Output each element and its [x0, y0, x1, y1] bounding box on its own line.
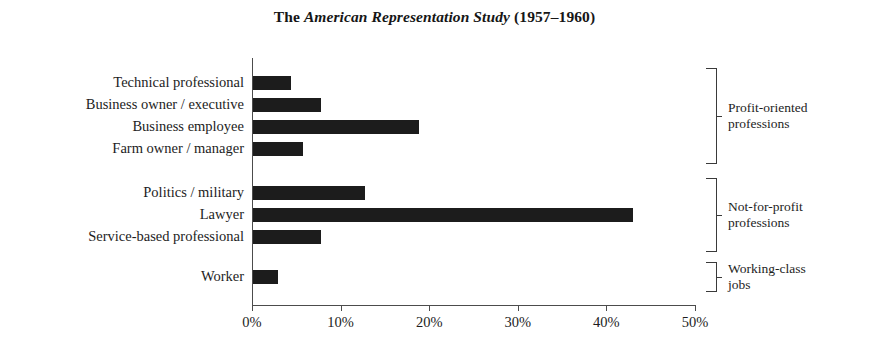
group-bracket: Working-classjobs: [706, 262, 869, 292]
bar: [253, 186, 365, 200]
group-label: Working-classjobs: [728, 261, 806, 293]
bar: [253, 208, 633, 222]
bar: [253, 76, 291, 90]
group-label-line: Not-for-profit: [728, 199, 803, 215]
bar: [253, 230, 321, 244]
group-bracket: Not-for-profitprofessions: [706, 178, 869, 252]
chart-title-suffix: (1957–1960): [510, 8, 595, 25]
group-label-line: jobs: [728, 277, 806, 293]
bracket-icon: [706, 68, 717, 164]
group-label-line: professions: [728, 116, 807, 132]
x-axis-tick: [695, 305, 696, 311]
x-axis-tick: [341, 305, 342, 311]
chart-title-prefix: The: [274, 8, 304, 25]
x-axis-tick: [606, 305, 607, 311]
bar: [253, 120, 419, 134]
bracket-nub-icon: [717, 116, 722, 117]
chart-figure: The American Representation Study (1957–…: [0, 0, 869, 354]
group-brackets: Profit-orientedprofessionsNot-for-profit…: [706, 0, 869, 354]
category-label: Business employee: [132, 118, 244, 135]
category-label: Service-based professional: [88, 228, 244, 245]
bracket-icon: [706, 262, 717, 292]
x-axis-tick-label: 40%: [593, 314, 620, 331]
group-label-line: Profit-oriented: [728, 100, 807, 116]
group-bracket: Profit-orientedprofessions: [706, 68, 869, 164]
bracket-nub-icon: [717, 215, 722, 216]
y-axis-line: [252, 58, 253, 305]
x-axis-tick-label: 0%: [242, 314, 261, 331]
x-axis-tick-label: 20%: [416, 314, 443, 331]
bar: [253, 270, 278, 284]
plot-area: 0%10%20%30%40%50%: [252, 58, 695, 305]
chart-title-emphasis: American Representation Study: [304, 8, 510, 25]
category-label: Politics / military: [143, 184, 244, 201]
group-label: Profit-orientedprofessions: [728, 100, 807, 132]
group-label: Not-for-profitprofessions: [728, 199, 803, 231]
category-label: Farm owner / manager: [112, 140, 244, 157]
x-axis-tick: [518, 305, 519, 311]
bracket-icon: [706, 178, 717, 252]
bar: [253, 142, 303, 156]
x-axis-tick-label: 30%: [505, 314, 532, 331]
category-label: Worker: [201, 268, 244, 285]
category-label: Technical professional: [113, 74, 244, 91]
category-label: Lawyer: [200, 206, 244, 223]
x-axis-line: [252, 305, 695, 306]
bracket-nub-icon: [717, 277, 722, 278]
x-axis-tick: [252, 305, 253, 311]
group-label-line: professions: [728, 215, 803, 231]
bar: [253, 98, 321, 112]
x-axis-tick-label: 10%: [327, 314, 354, 331]
group-label-line: Working-class: [728, 261, 806, 277]
category-label: Business owner / executive: [86, 96, 244, 113]
x-axis-tick: [429, 305, 430, 311]
category-axis-labels: Technical professionalBusiness owner / e…: [0, 0, 248, 354]
x-axis-tick-label: 50%: [682, 314, 709, 331]
